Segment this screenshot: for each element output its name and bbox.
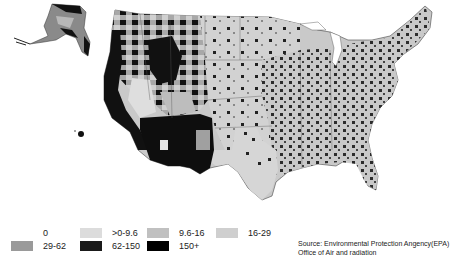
legend-label: 16-29 <box>248 228 271 238</box>
legend-swatch <box>11 241 33 251</box>
legend-label: 9.6-16 <box>179 228 205 238</box>
us-county-map <box>0 0 451 215</box>
legend-swatch <box>216 228 238 238</box>
legend-item-3: 16-29 <box>216 228 271 238</box>
legend-swatch <box>80 241 102 251</box>
legend-item-0: 0 <box>11 228 48 238</box>
legend-label: 0 <box>43 228 48 238</box>
legend-swatch <box>11 228 33 238</box>
legend-item-5: 62-150 <box>80 241 140 251</box>
legend-item-2: 9.6-16 <box>147 228 205 238</box>
source-credit: Source: Environmental Protection Angency… <box>298 239 449 257</box>
source-line-2: Office of Air and radiation <box>298 248 449 257</box>
legend-label: 62-150 <box>112 241 140 251</box>
legend-swatch <box>147 228 169 238</box>
legend-item-6: 150+ <box>147 241 199 251</box>
contiguous-us <box>104 6 432 200</box>
alaska <box>14 4 90 56</box>
legend-label: 150+ <box>179 241 199 251</box>
legend-item-1: >0-9.6 <box>80 228 138 238</box>
legend-label: 29-62 <box>43 241 66 251</box>
legend-swatch <box>147 241 169 251</box>
legend-item-4: 29-62 <box>11 241 66 251</box>
legend-swatch <box>80 228 102 238</box>
hawaii <box>74 130 84 137</box>
legend-label: >0-9.6 <box>112 228 138 238</box>
source-line-1: Source: Environmental Protection Angency… <box>298 239 449 248</box>
